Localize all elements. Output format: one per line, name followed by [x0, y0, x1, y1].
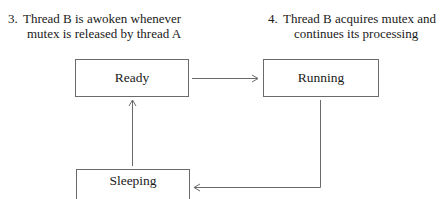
arrow-sleeping-to-ready [129, 100, 136, 166]
arrow-ready-to-running [192, 75, 258, 82]
transition-arrows [0, 0, 448, 199]
arrow-running-to-sleeping [194, 100, 321, 191]
